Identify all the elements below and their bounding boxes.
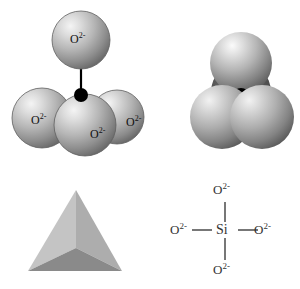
lewis-oxygen-top: O2- bbox=[213, 183, 230, 196]
tetrahedron-panel bbox=[0, 170, 150, 289]
lewis-structure-panel: O2- O2- Si O2- O2- bbox=[150, 170, 300, 289]
tetrahedron-svg bbox=[0, 170, 150, 289]
oxygen-sphere-sf-top bbox=[210, 32, 272, 94]
oxygen-sphere-sf-right bbox=[230, 85, 294, 149]
figure-root: O2- O2- O2- O2- bbox=[0, 0, 300, 289]
lewis-silicon-center: Si bbox=[216, 223, 228, 237]
lewis-oxygen-right: O2- bbox=[254, 223, 271, 236]
oxygen-label-left: O2- bbox=[31, 114, 46, 126]
oxygen-label-right: O2- bbox=[126, 116, 141, 128]
ball-and-stick-panel: O2- O2- O2- O2- bbox=[0, 0, 150, 170]
lewis-oxygen-left: O2- bbox=[170, 223, 187, 236]
oxygen-label-front: O2- bbox=[90, 128, 105, 140]
silicon-center-dot bbox=[74, 88, 88, 102]
oxygen-label-top: O2- bbox=[70, 33, 85, 45]
lewis-oxygen-bottom: O2- bbox=[213, 263, 230, 276]
space-filling-svg bbox=[150, 0, 300, 170]
oxygen-sphere-front bbox=[54, 94, 116, 156]
space-filling-panel bbox=[150, 0, 300, 170]
ball-and-stick-svg bbox=[0, 0, 150, 170]
